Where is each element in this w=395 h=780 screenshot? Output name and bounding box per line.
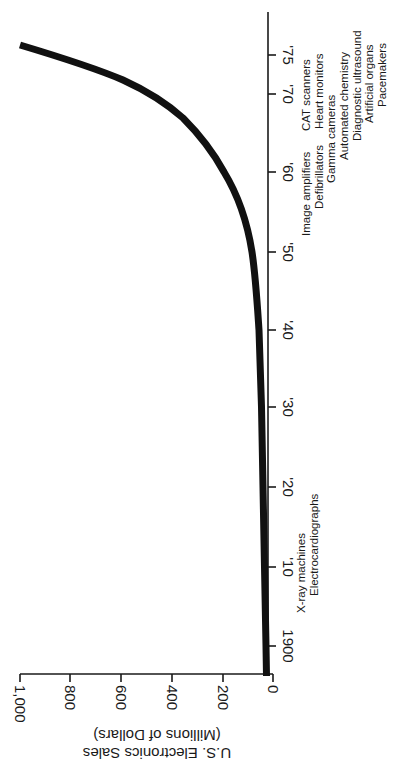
annot-artificial-organs: Artificial organs (363, 44, 375, 123)
annot-xray-machines: X-ray machines (295, 533, 307, 613)
annot-image-amplifiers: Image amplifiers (300, 151, 312, 236)
year-label-1975: '75 (280, 45, 297, 65)
sales-label-800: 800 (62, 685, 79, 710)
sales-label-600: 600 (113, 685, 130, 710)
year-label-1950: '50 (280, 242, 297, 262)
sales-label-1000: 1,000 (12, 685, 29, 723)
annot-automated-chemistry: Automated chemistry (338, 52, 350, 160)
annot-gamma-cameras: Gamma cameras (325, 95, 337, 183)
annot-defibrillators: Defibrillators (313, 145, 325, 209)
sales-tick-labels: 0 200 400 600 800 1,000 (12, 685, 282, 723)
sales-axis-title-line2: (Millions of Dollars) (93, 727, 221, 744)
year-axis-ticks (268, 55, 276, 646)
annotations-early: X-ray machines Electrocardiographs (295, 493, 320, 613)
annot-cat-scanners: CAT scanners (300, 59, 312, 131)
annot-electrocardiographs: Electrocardiographs (308, 493, 320, 596)
sales-label-0: 0 (265, 685, 282, 693)
annot-heart-monitors: Heart monitors (313, 53, 325, 129)
year-label-1930: '30 (280, 397, 297, 417)
annotations-late: Image amplifiers CAT scanners Defibrilla… (300, 30, 388, 236)
sales-curve (20, 45, 267, 676)
sales-label-400: 400 (164, 685, 181, 710)
annot-diagnostic-ultrasound: Diagnostic ultrasound (351, 30, 363, 141)
year-label-1970: '70 (280, 84, 297, 104)
year-label-1900: 1900 (280, 629, 297, 662)
sales-axis-title-line1: U.S. Electronics Sales (83, 745, 231, 762)
year-label-1920: '20 (280, 477, 297, 497)
sales-axis-title: (Millions of Dollars) U.S. Electronics S… (83, 727, 231, 762)
sales-axis-ticks (20, 674, 273, 682)
electronics-sales-chart: 1900 '10 '20 '30 '40 '50 '60 '70 '75 0 2… (0, 0, 395, 780)
year-label-1960: '60 (280, 162, 297, 182)
year-label-1940: '40 (280, 320, 297, 340)
annot-pacemakers: Pacemakers (376, 43, 388, 107)
sales-label-200: 200 (215, 685, 232, 710)
